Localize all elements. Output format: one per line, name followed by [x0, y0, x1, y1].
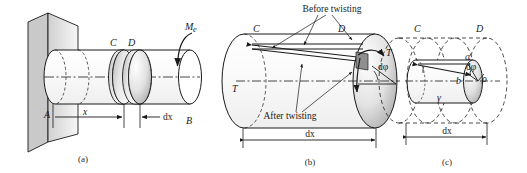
- label-before-twisting: Before twisting: [303, 4, 362, 14]
- caption-c: (c): [442, 157, 452, 167]
- label-end-b: B: [186, 115, 192, 126]
- label-radius-rho: ρ: [481, 73, 487, 84]
- label-after-twisting: After twisting: [263, 111, 316, 121]
- figure-container: M e C D A B x dx (a): [0, 0, 527, 173]
- label-section-c-a: C: [110, 37, 117, 48]
- label-section-d-a: D: [127, 37, 136, 48]
- label-dim-x: x: [82, 107, 88, 117]
- caption-a: (a): [78, 154, 88, 164]
- label-end-a: A: [43, 109, 51, 120]
- label-dim-dx-b: dx: [305, 129, 315, 139]
- label-point-a: a: [465, 51, 470, 62]
- label-section-d-b: D: [337, 23, 346, 34]
- label-twist-angle-c: dφ: [466, 62, 477, 72]
- caption-b: (b): [305, 157, 316, 167]
- section-disc-d-a: [123, 50, 152, 104]
- label-section-c-c: C: [414, 23, 421, 34]
- dimension-dx-c: dx: [406, 123, 487, 145]
- label-dim-dx-c: dx: [442, 126, 452, 136]
- panel-a: M e C D A B x dx (a): [28, 13, 202, 164]
- dimension-dx-a: dx: [142, 112, 173, 122]
- label-section-d-c: D: [475, 23, 484, 34]
- label-section-c-b: C: [253, 23, 260, 34]
- label-twist-angle-b: dφ: [378, 62, 389, 72]
- panel-c: dφ ρ γ a b C D dx (c): [379, 23, 507, 167]
- torsion-figure-svg: M e C D A B x dx (a): [0, 0, 527, 173]
- dimension-dx-b: dx: [243, 128, 376, 148]
- label-point-b: b: [456, 75, 461, 86]
- label-dim-dx-a: dx: [163, 112, 173, 122]
- label-torque-me-sub: e: [193, 24, 197, 34]
- panel-b: dφ T T C D Before twisting After twistin…: [222, 4, 400, 167]
